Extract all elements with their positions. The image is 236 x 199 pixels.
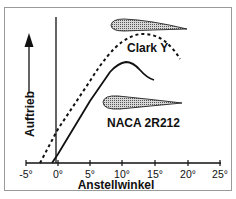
x-axis-title: Anstellwinkel bbox=[78, 178, 155, 192]
clark-y-label: Clark Y bbox=[127, 41, 168, 55]
y-axis-title: Auftrieb bbox=[23, 91, 37, 137]
x-tick-label: 20° bbox=[180, 168, 196, 180]
x-tick-label: 25° bbox=[212, 168, 228, 180]
naca-2r212-label: NACA 2R212 bbox=[107, 116, 180, 130]
x-tick-label: -5° bbox=[19, 168, 33, 180]
clark-y-airfoil-icon bbox=[111, 19, 187, 31]
x-tick-label: 0° bbox=[53, 168, 63, 180]
naca-2r212-curve bbox=[52, 62, 154, 163]
lift-arrow-icon bbox=[25, 33, 34, 92]
naca-2r212-airfoil-icon bbox=[103, 96, 182, 109]
lift-chart: -5° 0° 5° 10° 15° 20° 25° Anstellwinkel … bbox=[0, 0, 236, 199]
